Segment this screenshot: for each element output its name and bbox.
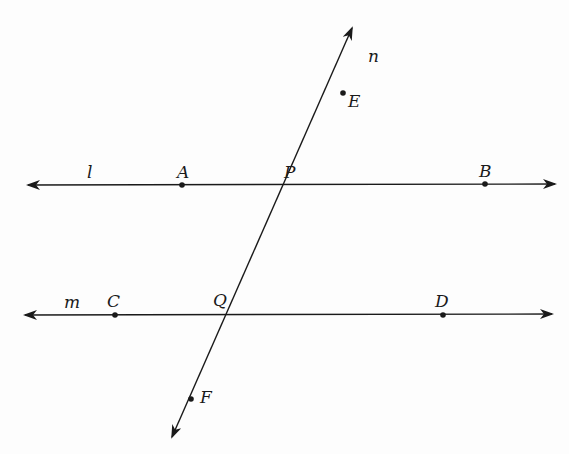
point-label-F: F	[199, 387, 213, 407]
point-label-E: E	[347, 91, 361, 111]
point-B	[482, 181, 488, 187]
point-E	[340, 90, 346, 96]
point-D	[440, 312, 446, 318]
geometry-diagram: lmnAPBECQDF	[0, 0, 569, 454]
points-layer	[112, 90, 488, 402]
point-label-B: B	[478, 161, 492, 181]
parallel-lines-transversal-figure: lmnAPBECQDF	[0, 0, 569, 454]
line-l	[28, 184, 555, 185]
labels-layer: lmnAPBECQDF	[64, 46, 492, 407]
line-n	[172, 28, 352, 437]
point-A	[179, 182, 185, 188]
point-label-C: C	[107, 291, 120, 311]
point-C	[112, 312, 118, 318]
lines-layer	[25, 28, 555, 437]
line-label-m: m	[64, 292, 80, 312]
line-m	[25, 314, 552, 315]
point-label-A: A	[175, 162, 189, 182]
point-label-D: D	[434, 291, 449, 311]
point-label-P: P	[283, 162, 296, 182]
line-label-n: n	[368, 46, 379, 66]
point-F	[188, 396, 194, 402]
point-label-Q: Q	[213, 290, 227, 310]
line-label-l: l	[87, 162, 92, 182]
